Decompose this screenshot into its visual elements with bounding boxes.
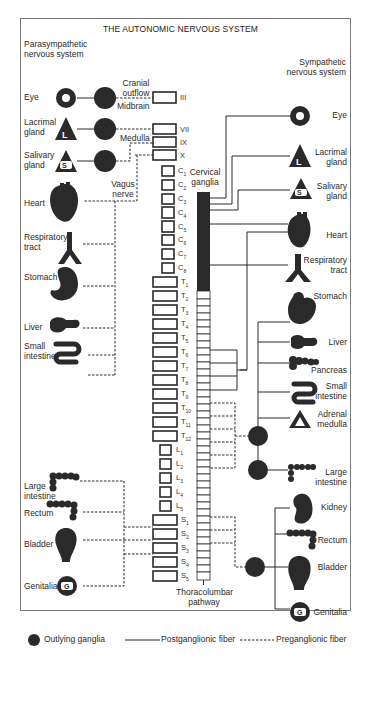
left-small-intestine-icon xyxy=(56,344,79,362)
ganglion-ciliary xyxy=(94,87,116,109)
right-label-heart: Heart xyxy=(326,231,347,241)
sympathetic-head-connections xyxy=(210,116,290,370)
right-liver-icon xyxy=(291,335,317,349)
sacral-parasympathetic-connections xyxy=(80,481,153,586)
right-eye-icon xyxy=(290,106,310,126)
legend-ganglia-label: Outlying ganglia xyxy=(44,635,105,645)
parasympathetic-heading: Parasympatheticnervous system xyxy=(24,40,87,59)
svg-text:S: S xyxy=(297,189,302,196)
left-label-salivary: Salivary gland xyxy=(24,151,54,170)
left-label-eye: Eye xyxy=(24,93,39,103)
right-label-bladder: Bladder xyxy=(318,563,347,573)
cervical-ganglia-bar xyxy=(197,192,210,291)
sacral-boxes xyxy=(153,515,177,581)
svg-text:G: G xyxy=(297,609,303,616)
right-bladder-icon xyxy=(288,556,310,590)
left-label-bladder: Bladder xyxy=(24,540,53,550)
svg-text:L: L xyxy=(296,157,302,167)
label-thoracolumbar: Thoracolumbar pathway xyxy=(176,588,232,607)
label-nerve-IX: IX xyxy=(180,138,187,147)
right-label-salivary: Salivary gland xyxy=(313,182,347,201)
label-medulla: Medulla xyxy=(120,134,150,144)
label-nerve-X: X xyxy=(180,151,185,160)
left-label-lacrimal: Lacrimal gland xyxy=(24,118,54,137)
label-nerve-VII: VII xyxy=(180,125,189,134)
right-label-eye: Eye xyxy=(332,111,347,121)
left-liver-icon xyxy=(50,317,80,332)
label-cranial-outflow: Cranial outflow xyxy=(119,79,153,98)
ganglion-pelvic xyxy=(245,557,265,577)
left-salivary-icon: S xyxy=(55,150,77,172)
right-kidney-icon xyxy=(293,494,312,524)
right-label-lacrimal: Lacrimal gland xyxy=(313,148,347,167)
right-label-kidney: Kidney xyxy=(321,503,347,513)
left-bladder-icon xyxy=(55,528,76,562)
diagram-title: THE AUTONOMIC NERVOUS SYSTEM xyxy=(103,24,258,34)
nerve-box-III xyxy=(153,92,176,103)
left-label-heart: Heart xyxy=(24,199,45,209)
right-label-liver: Liver xyxy=(329,338,347,348)
nerve-box-VII xyxy=(153,124,176,134)
right-label-rectum: Rectum xyxy=(318,536,347,546)
right-label-genitalia: Genitalia xyxy=(313,608,347,618)
lumbar-boxes xyxy=(160,445,171,511)
right-label-small-intestine: Small intestine xyxy=(311,382,347,401)
lumbar-preganglionic xyxy=(210,403,248,468)
svg-text:G: G xyxy=(64,583,70,590)
sympathetic-chain xyxy=(197,291,210,585)
sympathetic-heading: Sympatheticnervous system xyxy=(286,58,346,77)
left-label-stomach: Stomach xyxy=(24,273,58,283)
abdominal-trunk xyxy=(258,322,290,468)
legend-pre-label: Preganglionic fiber xyxy=(276,635,346,645)
right-genitalia-icon: G xyxy=(290,602,310,622)
legend-ganglia-icon xyxy=(28,634,40,646)
cervical-boxes xyxy=(162,166,174,273)
left-label-liver: Liver xyxy=(24,323,42,333)
left-label-respiratory: Respiratory tract xyxy=(24,233,74,252)
ganglion-pterygopalatine xyxy=(94,118,116,140)
left-label-large-intestine: Large intestine xyxy=(24,482,58,501)
label-nerve-III: III xyxy=(180,93,186,102)
right-salivary-icon: S xyxy=(290,178,312,199)
thoracic-splanchnic xyxy=(210,350,247,390)
right-heart-icon xyxy=(288,212,311,247)
right-label-adrenal: Adrenal medulla xyxy=(311,410,347,429)
svg-text:S: S xyxy=(62,162,67,169)
left-genitalia-icon: G xyxy=(57,576,77,596)
left-lacrimal-icon: L xyxy=(55,117,77,140)
right-lacrimal-icon: L xyxy=(289,144,311,167)
svg-text:L: L xyxy=(62,130,68,140)
right-label-pancreas: Pancreas xyxy=(311,366,347,376)
right-label-stomach: Stomach xyxy=(313,292,347,302)
sacral-sympathetic xyxy=(210,517,245,567)
right-adrenal-icon xyxy=(289,410,311,428)
left-label-small-intestine: Small intestine xyxy=(24,342,58,361)
right-label-large-intestine: Large intestine xyxy=(311,468,347,487)
ganglion-otic xyxy=(94,150,116,172)
right-stomach-icon xyxy=(288,292,316,324)
thoracic-boxes xyxy=(153,277,177,441)
label-cervical-ganglia: Cervical ganglia xyxy=(186,168,224,187)
right-label-respiratory: Respiratory tract xyxy=(301,256,347,275)
label-vagus-nerve: Vagus nerve xyxy=(109,180,137,199)
left-eye-icon xyxy=(56,88,76,108)
left-label-genitalia: Genitalia xyxy=(24,582,58,592)
ganglion-mesenteric xyxy=(248,460,268,480)
left-heart-icon xyxy=(50,182,78,222)
nerve-box-IX xyxy=(153,137,176,147)
ganglion-celiac xyxy=(248,426,268,446)
left-label-rectum: Rectum xyxy=(24,509,53,519)
label-midbrain: Midbrain xyxy=(117,102,150,112)
nerve-box-X xyxy=(153,150,176,160)
right-rectum-icon xyxy=(287,530,317,550)
legend-post-label: Postganglionic fiber xyxy=(161,635,235,645)
